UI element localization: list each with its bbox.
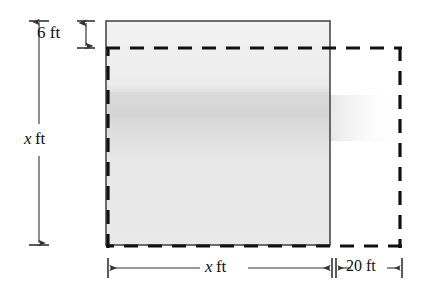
original-square-outline	[106, 21, 330, 245]
label-bottom-x-ft-var: x	[205, 257, 216, 276]
label-six-ft-text: 6 ft	[37, 23, 60, 42]
label-twenty-ft-text: 20 ft	[346, 257, 376, 274]
region-ghost-shading	[330, 95, 402, 141]
label-left-x-ft-unit: ft	[35, 129, 45, 148]
label-twenty-ft: 20 ft	[346, 258, 376, 274]
geometry-figure: 6 ft x ft x ft 20 ft	[0, 0, 424, 286]
label-left-x-ft-var: x	[24, 129, 35, 148]
original-square-region	[106, 21, 330, 245]
label-six-ft: 6 ft	[37, 24, 60, 41]
dimension-six-ft	[77, 21, 95, 48]
label-bottom-x-ft-unit: ft	[216, 257, 226, 276]
figure-canvas	[0, 0, 424, 286]
scan-band-artifact	[107, 92, 329, 118]
label-bottom-x-ft: x ft	[205, 258, 226, 275]
label-left-x-ft: x ft	[24, 130, 45, 147]
